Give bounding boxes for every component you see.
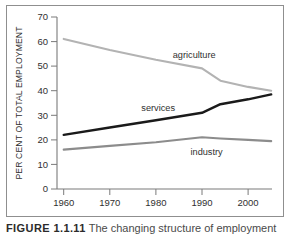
figure-caption-number: FIGURE 1.1.11 xyxy=(6,222,86,234)
y-axis-title: PER CENT OF TOTAL EMPLOYMENT xyxy=(14,26,24,180)
x-tick-label-1980: 1980 xyxy=(145,197,166,208)
y-tick-label-20: 20 xyxy=(37,134,48,145)
series-label-agriculture: agriculture xyxy=(173,50,216,60)
y-tick-label-40: 40 xyxy=(37,85,48,96)
y-tick-label-30: 30 xyxy=(37,110,48,121)
y-axis-tick-labels: 0 10 20 30 40 50 60 70 xyxy=(37,11,48,194)
x-axis-ticks xyxy=(64,189,248,195)
x-tick-label-1990: 1990 xyxy=(191,197,212,208)
x-tick-label-1960: 1960 xyxy=(53,197,74,208)
y-tick-label-0: 0 xyxy=(43,183,48,194)
series-label-industry: industry xyxy=(191,147,224,157)
employment-line-chart: 0 10 20 30 40 50 60 70 1960 1970 1980 19… xyxy=(6,5,284,217)
y-tick-label-10: 10 xyxy=(37,159,48,170)
x-axis-tick-labels: 1960 1970 1980 1990 2000 xyxy=(53,197,259,208)
figure-caption: FIGURE 1.1.11 The changing structure of … xyxy=(6,222,284,235)
y-tick-label-60: 60 xyxy=(37,36,48,47)
x-tick-label-2000: 2000 xyxy=(238,197,259,208)
y-tick-label-70: 70 xyxy=(37,11,48,22)
series-line-agriculture xyxy=(64,39,272,91)
y-axis-ticks xyxy=(51,17,57,189)
x-tick-label-1970: 1970 xyxy=(99,197,120,208)
y-tick-label-50: 50 xyxy=(37,60,48,71)
series-label-services: services xyxy=(141,103,175,113)
series-line-industry xyxy=(64,137,272,149)
series-line-services xyxy=(64,94,272,134)
figure-container: 0 10 20 30 40 50 60 70 1960 1970 1980 19… xyxy=(0,0,291,235)
figure-caption-text: The changing structure of employment xyxy=(89,222,277,234)
